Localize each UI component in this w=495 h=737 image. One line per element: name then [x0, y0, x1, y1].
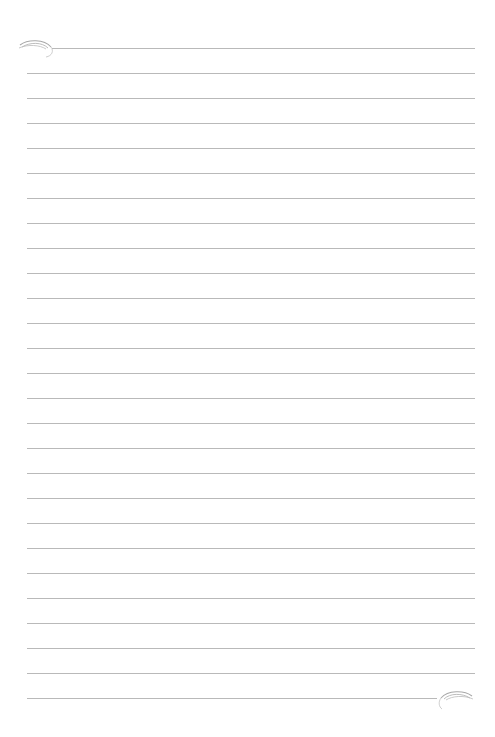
ruled-line — [27, 523, 475, 524]
ruled-line — [27, 673, 475, 674]
ruled-line — [27, 473, 475, 474]
ruled-line — [27, 223, 475, 224]
ruled-line — [27, 348, 475, 349]
ruled-line — [27, 498, 475, 499]
ruled-line — [27, 148, 475, 149]
ruled-line — [27, 398, 475, 399]
lined-paper-page — [0, 0, 495, 737]
ruled-line — [27, 423, 475, 424]
bottom-right-swirl-icon — [434, 688, 474, 710]
ruled-line — [27, 198, 475, 199]
ruled-line — [27, 298, 475, 299]
ruled-line — [27, 573, 475, 574]
ruled-line — [27, 248, 475, 249]
ruled-line — [27, 598, 475, 599]
ruled-line — [52, 48, 475, 49]
ruled-line — [27, 623, 475, 624]
ruled-line — [27, 123, 475, 124]
ruled-line — [27, 373, 475, 374]
ruled-line — [27, 323, 475, 324]
ruled-line — [27, 698, 437, 699]
ruled-line — [27, 648, 475, 649]
ruled-line — [27, 548, 475, 549]
ruled-line — [27, 98, 475, 99]
ruled-line — [27, 273, 475, 274]
ruled-line — [27, 448, 475, 449]
ruled-line — [27, 73, 475, 74]
ruled-line — [27, 173, 475, 174]
